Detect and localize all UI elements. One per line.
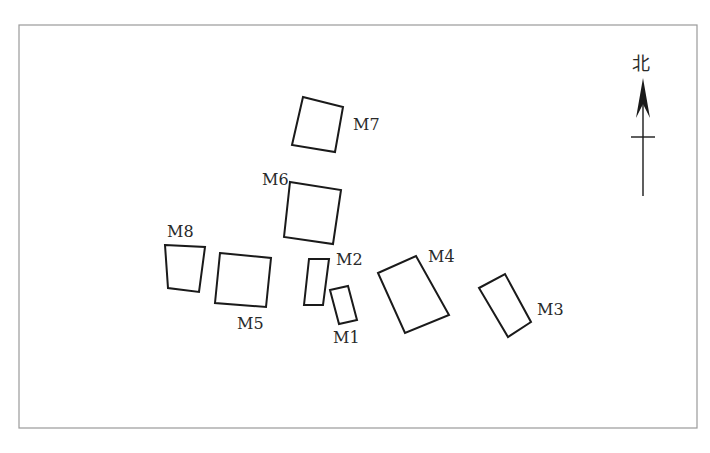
tomb-m7: M7 <box>292 97 380 152</box>
tomb-label: M8 <box>167 222 194 241</box>
tomb-m3: M3 <box>479 274 564 337</box>
tomb-outline <box>292 97 343 152</box>
tomb-outline <box>330 286 357 324</box>
tomb-label: M3 <box>537 300 564 319</box>
tomb-distribution-diagram: 北 M1M2M3M4M5M6M7M8 <box>0 0 710 453</box>
tomb-m4: M4 <box>378 247 455 333</box>
map-frame <box>19 25 697 428</box>
tomb-layer: M1M2M3M4M5M6M7M8 <box>165 97 564 347</box>
north-arrow-icon: 北 <box>631 53 655 196</box>
north-label: 北 <box>632 53 650 74</box>
tomb-label: M2 <box>336 250 363 269</box>
tomb-m1: M1 <box>330 286 360 347</box>
tomb-m2: M2 <box>304 250 363 305</box>
tomb-label: M1 <box>333 328 360 347</box>
tomb-m8: M8 <box>165 222 205 292</box>
tomb-outline <box>215 253 271 307</box>
tomb-outline <box>304 259 329 305</box>
tomb-label: M6 <box>262 170 289 189</box>
tomb-m6: M6 <box>262 170 341 244</box>
diagram-svg: 北 M1M2M3M4M5M6M7M8 <box>0 0 710 453</box>
tomb-m5: M5 <box>215 253 271 333</box>
tomb-outline <box>378 256 449 333</box>
tomb-outline <box>479 274 531 337</box>
tomb-label: M4 <box>428 247 455 266</box>
tomb-outline <box>165 245 205 292</box>
tomb-label: M5 <box>237 314 264 333</box>
tomb-label: M7 <box>353 115 380 134</box>
tomb-outline <box>284 182 341 244</box>
